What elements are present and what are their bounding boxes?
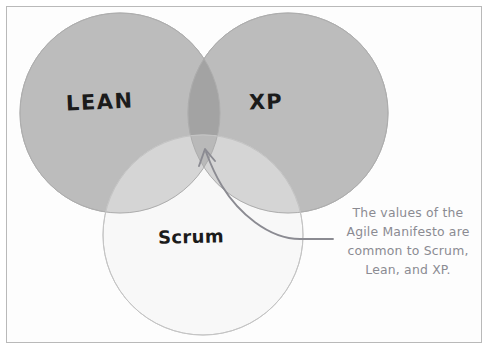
- venn-label-lean: LEAN: [66, 91, 134, 115]
- annotation-line-1: The values of the: [333, 203, 483, 222]
- annotation-line-4: Lean, and XP.: [333, 260, 483, 279]
- venn-label-xp: XP: [249, 91, 283, 113]
- venn-label-scrum: Scrum: [158, 227, 225, 247]
- annotation-line-3: common to Scrum,: [333, 241, 483, 260]
- venn-diagram-svg: [0, 0, 489, 350]
- figure-canvas: LEAN XP Scrum The values of the Agile Ma…: [0, 0, 489, 350]
- annotation-line-2: Agile Manifesto are: [333, 222, 483, 241]
- annotation-text-block: The values of the Agile Manifesto are co…: [333, 203, 483, 279]
